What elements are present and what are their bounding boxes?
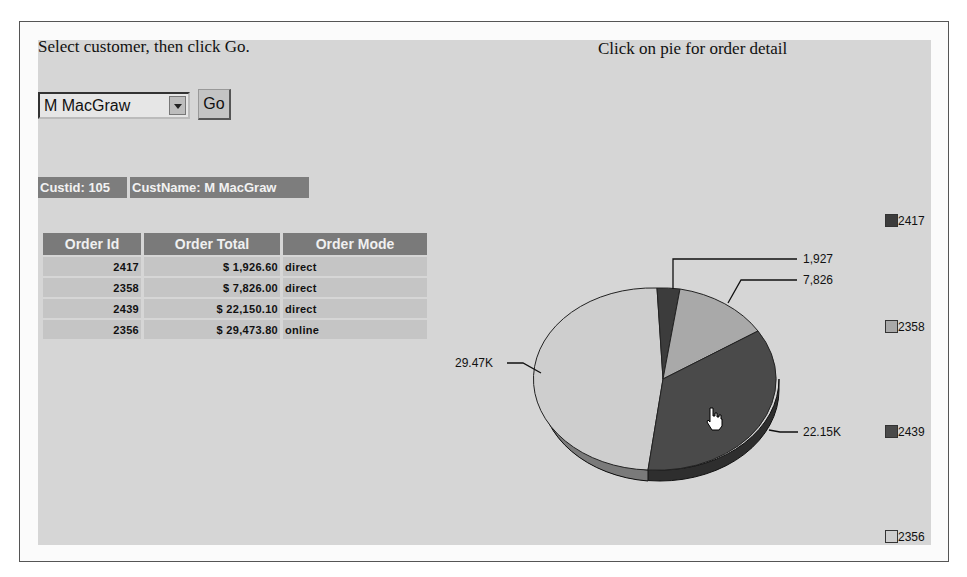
legend-swatch-icon [885,530,898,543]
pie-label-2439: 22.15K [803,425,841,439]
legend-label: 2356 [898,530,925,544]
leader-line-2417 [673,259,797,289]
legend-item-2417[interactable]: 2417 [885,214,925,229]
pie-slice-2356[interactable] [533,288,663,470]
legend-label: 2358 [898,320,925,334]
pie-label-2356: 29.47K [455,356,493,370]
legend-swatch-icon [885,320,898,333]
legend-swatch-icon [885,214,898,227]
leader-line-2358 [728,280,797,303]
legend-label: 2439 [898,425,925,439]
legend-swatch-icon [885,425,898,438]
pie-label-2417: 1,927 [803,252,833,266]
pie-label-2358: 7,826 [803,273,833,287]
legend-item-2356[interactable]: 2356 [885,530,925,545]
legend-label: 2417 [898,214,925,228]
leader-line-2439 [769,430,798,432]
legend-item-2439[interactable]: 2439 [885,425,925,440]
order-pie-chart[interactable] [0,0,967,577]
legend-item-2358[interactable]: 2358 [885,320,925,335]
